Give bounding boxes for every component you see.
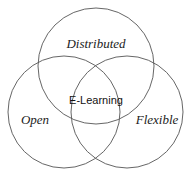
label-flexible: Flexible [135, 112, 179, 127]
venn-diagram: Distributed Open Flexible E-Learning [0, 0, 191, 180]
label-e-learning: E-Learning [69, 94, 123, 106]
label-open: Open [21, 112, 49, 127]
label-distributed: Distributed [65, 36, 126, 51]
